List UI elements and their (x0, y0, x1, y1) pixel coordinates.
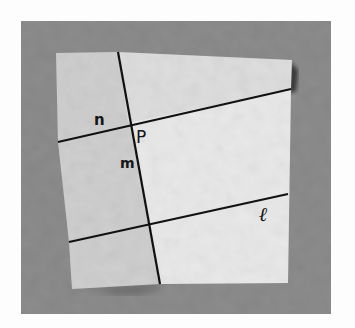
label-p: P (136, 127, 146, 147)
photo-stage: n P m ℓ (0, 0, 355, 328)
label-m: m (120, 155, 135, 171)
label-n: n (94, 111, 105, 129)
folded-paper-photo: n P m ℓ (0, 0, 355, 328)
label-l: ℓ (259, 202, 268, 226)
